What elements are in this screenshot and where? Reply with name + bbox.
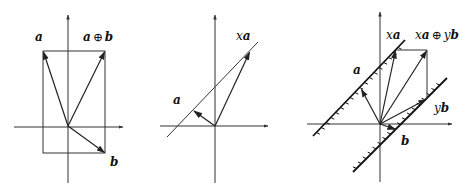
label-a: a bbox=[173, 93, 181, 107]
panel-scalar-multiple: a xa bbox=[160, 15, 268, 183]
label-b: b bbox=[401, 134, 409, 148]
vector-xa-plus-yb bbox=[380, 51, 427, 124]
vector-b bbox=[380, 124, 396, 130]
label-a: a bbox=[353, 63, 361, 77]
vector-a bbox=[362, 90, 381, 125]
upper-boundary-line bbox=[313, 40, 405, 136]
label-xa: xa bbox=[386, 28, 401, 42]
vector-yb bbox=[380, 100, 426, 125]
label-a-oplus-b: a⊕b bbox=[83, 30, 113, 44]
vector-a bbox=[194, 111, 215, 126]
vector-diagrams: a a⊕b b a xa bbox=[0, 0, 471, 194]
panel-vector-sum: a a⊕b b bbox=[14, 15, 123, 183]
panel-linear-combination: a b xa yb xa⊕yb bbox=[307, 12, 459, 182]
label-b: b bbox=[110, 155, 118, 169]
vector-xa bbox=[380, 51, 396, 124]
vector-b bbox=[68, 126, 105, 153]
parallelogram-box bbox=[43, 51, 105, 153]
label-xa: xa bbox=[236, 29, 251, 43]
vector-a bbox=[44, 52, 69, 126]
label-a: a bbox=[35, 30, 43, 44]
label-xa-oplus-yb: xa⊕yb bbox=[415, 28, 459, 42]
label-yb: yb bbox=[433, 101, 449, 115]
vector-a-plus-b bbox=[68, 52, 105, 126]
vector-xa bbox=[215, 53, 250, 127]
line-through-a bbox=[167, 42, 258, 137]
